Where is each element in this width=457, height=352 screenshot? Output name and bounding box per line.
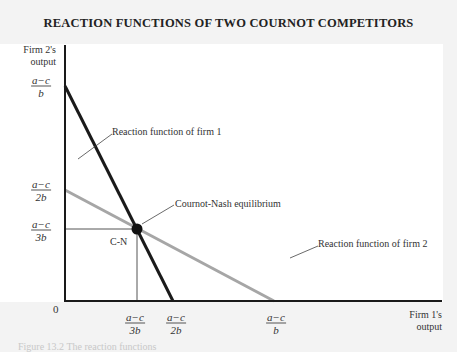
- cn-label: C-N: [110, 236, 127, 247]
- y-tick-denominator: b: [31, 87, 51, 99]
- y-axis-title-line1: Firm 2's: [23, 44, 56, 55]
- firm1-leader-line: [78, 134, 112, 159]
- x-tick-denominator: 2b: [166, 324, 186, 336]
- y-tick-b: a−c b: [31, 74, 51, 99]
- x-tick-3b: a−c 3b: [125, 311, 145, 336]
- y-tick-3b: a−c 3b: [31, 218, 51, 243]
- y-tick-denominator: 3b: [31, 231, 51, 243]
- x-tick-numerator: a−c: [125, 311, 145, 324]
- firm1-reaction-line: [65, 86, 173, 301]
- equilibrium-leader-line: [142, 205, 174, 224]
- y-tick-denominator: 2b: [31, 191, 51, 203]
- firm1-label: Reaction function of firm 1: [112, 126, 221, 137]
- equilibrium-point: [132, 224, 143, 235]
- figure-caption-partial: Figure 13.2 The reaction functions: [18, 341, 156, 352]
- x-axis-title: Firm 1's output: [398, 309, 442, 333]
- x-tick-denominator: b: [266, 324, 286, 336]
- origin-label: 0: [53, 303, 59, 315]
- firm2-leader-line: [290, 246, 318, 258]
- equilibrium-label: Cournot-Nash equilibrium: [175, 198, 281, 209]
- x-tick-numerator: a−c: [166, 311, 186, 324]
- y-axis-title-line2: output: [30, 56, 56, 67]
- x-tick-2b: a−c 2b: [166, 311, 186, 336]
- x-tick-numerator: a−c: [266, 311, 286, 324]
- y-tick-numerator: a−c: [31, 218, 51, 231]
- y-tick-numerator: a−c: [31, 74, 51, 87]
- y-tick-2b: a−c 2b: [31, 178, 51, 203]
- y-axis-title: Firm 2's output: [10, 44, 56, 68]
- x-tick-b: a−c b: [266, 311, 286, 336]
- firm2-label: Reaction function of firm 2: [318, 238, 427, 249]
- y-tick-numerator: a−c: [31, 178, 51, 191]
- x-tick-denominator: 3b: [125, 324, 145, 336]
- x-axis-title-line2: output: [416, 321, 442, 332]
- x-axis-title-line1: Firm 1's: [409, 309, 442, 320]
